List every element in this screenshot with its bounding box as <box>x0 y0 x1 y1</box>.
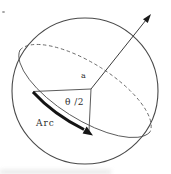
center-point-label: a <box>81 71 86 81</box>
radius-line-left <box>33 89 91 92</box>
figure-drawing <box>0 0 171 174</box>
scan-speck <box>2 11 5 13</box>
page-edge-shadow <box>0 170 111 174</box>
axis-arrow-line <box>91 20 146 89</box>
arc-arrowhead-icon <box>83 126 93 135</box>
half-angle-label: θ /2 <box>65 97 84 107</box>
arc-label: Arc <box>36 118 55 128</box>
radius-line-down <box>89 89 91 131</box>
sphere-arc-figure: a θ /2 Arc <box>0 0 171 174</box>
sphere-outline-circle <box>12 18 158 164</box>
